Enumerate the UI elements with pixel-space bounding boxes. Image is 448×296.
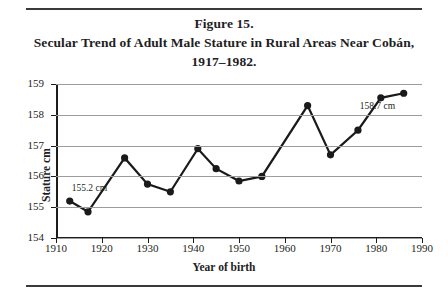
top-rule xyxy=(26,8,422,10)
data-point xyxy=(327,151,334,158)
y-axis-label: 157 xyxy=(0,140,44,151)
grid-line xyxy=(56,115,422,116)
y-axis-tick xyxy=(51,115,56,116)
x-axis-label: 1970 xyxy=(309,242,353,254)
bottom-rule xyxy=(26,285,422,287)
data-point xyxy=(66,197,73,204)
title-line-1: Figure 15. xyxy=(0,14,448,33)
data-point xyxy=(167,188,174,195)
data-point xyxy=(400,90,407,97)
x-axis-label: 1940 xyxy=(171,242,215,254)
x-axis-title: Year of birth xyxy=(0,261,448,273)
figure-title: Figure 15. Secular Trend of Adult Male S… xyxy=(0,14,448,71)
y-axis-tick xyxy=(51,146,56,147)
y-axis-label: 159 xyxy=(0,78,44,89)
y-axis-tick xyxy=(51,207,56,208)
data-point-label: 158.7 cm xyxy=(360,101,395,111)
y-axis-label: 156 xyxy=(0,170,44,181)
x-axis-label: 1950 xyxy=(217,242,261,254)
data-point xyxy=(121,154,128,161)
data-point-label: 155.2 cm xyxy=(72,183,107,193)
data-point xyxy=(354,127,361,134)
data-point xyxy=(235,177,242,184)
figure-page: Figure 15. Secular Trend of Adult Male S… xyxy=(0,0,448,296)
title-line-2: Secular Trend of Adult Male Stature in R… xyxy=(0,33,448,52)
y-axis-tick xyxy=(51,84,56,85)
series-path xyxy=(70,93,404,212)
grid-line xyxy=(56,84,422,85)
grid-line xyxy=(56,176,422,177)
data-point xyxy=(84,208,91,215)
x-axis-label: 1990 xyxy=(400,242,444,254)
y-axis-label: 155 xyxy=(0,201,44,212)
data-point xyxy=(144,181,151,188)
x-axis-label: 1930 xyxy=(126,242,170,254)
grid-line xyxy=(56,207,422,208)
line-chart: Stature cm 154155156157158159155.2 cm158… xyxy=(56,84,422,238)
x-axis-label: 1980 xyxy=(354,242,398,254)
x-axis-label: 1910 xyxy=(34,242,78,254)
y-axis-label: 158 xyxy=(0,109,44,120)
title-line-3: 1917–1982. xyxy=(0,52,448,71)
data-point xyxy=(213,165,220,172)
y-axis-tick xyxy=(51,176,56,177)
data-point xyxy=(304,102,311,109)
x-axis-label: 1960 xyxy=(263,242,307,254)
x-axis-label: 1920 xyxy=(80,242,124,254)
grid-line xyxy=(56,146,422,147)
